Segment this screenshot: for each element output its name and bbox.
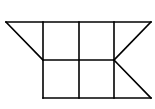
diagram-segments <box>6 22 151 98</box>
diagram-canvas <box>0 0 155 109</box>
segment-AF <box>6 22 43 60</box>
segment-EH <box>114 22 151 60</box>
segment-HL <box>114 60 151 98</box>
